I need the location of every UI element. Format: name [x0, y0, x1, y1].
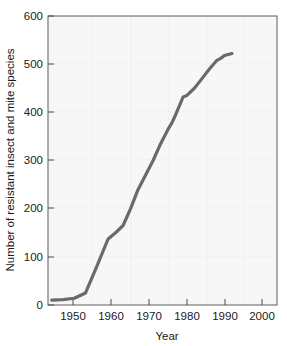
- y-tick-label: 100: [24, 251, 43, 263]
- y-axis-title: Number of resistant insect and mite spec…: [4, 48, 16, 271]
- y-tick-label: 0: [37, 299, 43, 311]
- y-tick-label: 500: [24, 58, 43, 70]
- x-tick-label: 1950: [60, 310, 86, 322]
- line-chart: 600 500 400 300 200 100 0 1950 1960 1970…: [0, 0, 287, 346]
- x-axis-title: Year: [155, 330, 178, 342]
- x-tick-label: 1970: [136, 310, 162, 322]
- chart-figure: 600 500 400 300 200 100 0 1950 1960 1970…: [0, 0, 287, 346]
- plot-area-background: [48, 16, 277, 305]
- y-tick-label: 300: [24, 154, 43, 166]
- y-tick-label: 200: [24, 202, 43, 214]
- x-tick-labels: 1950 1960 1970 1980 1990 2000: [60, 310, 275, 322]
- y-tick-labels: 600 500 400 300 200 100 0: [24, 10, 43, 311]
- x-tick-label: 1960: [98, 310, 124, 322]
- x-tick-label: 2000: [249, 310, 275, 322]
- x-tick-label: 1980: [174, 310, 200, 322]
- y-tick-label: 600: [24, 10, 43, 22]
- x-tick-label: 1990: [212, 310, 238, 322]
- y-tick-label: 400: [24, 106, 43, 118]
